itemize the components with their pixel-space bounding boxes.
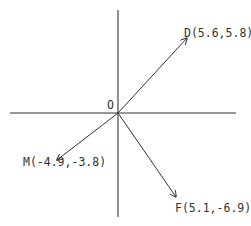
vector-f-label: F(5.1,-6.9)	[175, 201, 251, 215]
vector-d-label: D(5.6,5.8)	[184, 26, 251, 40]
vector-d-arrow	[118, 38, 187, 113]
diagram-svg: O D(5.6,5.8) M(-4.9,-3.8) F(5.1,-6.9)	[0, 0, 251, 226]
vector-m-arrow	[57, 113, 118, 160]
vector-f-arrow	[118, 113, 176, 197]
origin-label: O	[107, 98, 114, 112]
vector-diagram: O D(5.6,5.8) M(-4.9,-3.8) F(5.1,-6.9)	[0, 0, 251, 226]
vector-m-label: M(-4.9,-3.8)	[23, 155, 106, 169]
